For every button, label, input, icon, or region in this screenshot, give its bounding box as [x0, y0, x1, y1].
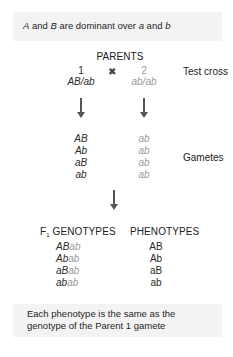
note-part: and	[144, 20, 165, 31]
note-line: genotype of the Parent 1 gamete	[27, 320, 175, 332]
arrow-down-icon	[113, 190, 115, 205]
parent2-number: 2	[133, 65, 155, 76]
f1-genotypes-list: ABab Abab aBab abab	[56, 241, 96, 289]
bottom-note-text: Each phenotype is the same as the genoty…	[27, 308, 175, 332]
phenotype: AB	[143, 241, 169, 253]
phenotypes-list: AB Ab aB ab	[143, 241, 169, 289]
gamete: aB	[68, 157, 94, 169]
parents-heading: PARENTS	[90, 51, 150, 62]
phenotypes-heading: PHENOTYPES	[130, 226, 199, 237]
parent1-number: 1	[70, 65, 92, 76]
gamete: ab	[131, 133, 157, 145]
parent2-genotype: ab/ab	[124, 76, 164, 87]
arrow-down-icon	[80, 98, 82, 113]
genotype-row: abab	[56, 277, 96, 289]
gamete: AB	[68, 133, 94, 145]
gamete: Ab	[68, 145, 94, 157]
note-line: Each phenotype is the same as the	[27, 308, 175, 320]
note-part: and	[29, 20, 50, 31]
gamete: ab	[68, 169, 94, 181]
genotype-row: ABab	[56, 241, 96, 253]
phenotype: ab	[143, 277, 169, 289]
parent1-gametes: AB Ab aB ab	[68, 133, 94, 181]
cross-icon: ✖	[105, 66, 119, 77]
test-cross-label: Test cross	[183, 66, 228, 77]
bottom-note-box: Each phenotype is the same as the genoty…	[13, 304, 222, 337]
top-note-box: A and B are dominant over a and b	[13, 12, 222, 41]
parent2-gametes: ab ab ab ab	[131, 133, 157, 181]
f1-genotypes-heading: F1 GENOTYPES	[40, 226, 116, 238]
genotype-row: aBab	[56, 265, 96, 277]
gamete: ab	[131, 157, 157, 169]
arrow-down-icon	[143, 98, 145, 113]
note-part: b	[165, 20, 170, 31]
phenotype: Ab	[143, 253, 169, 265]
phenotype: aB	[143, 265, 169, 277]
gametes-label: Gametes	[183, 152, 224, 163]
top-note-text: A and B are dominant over a and b	[23, 20, 170, 32]
note-part: are dominant over	[57, 20, 139, 31]
parent1-genotype: AB/ab	[61, 76, 101, 87]
genotype-row: Abab	[56, 253, 96, 265]
gamete: ab	[131, 145, 157, 157]
gamete: ab	[131, 169, 157, 181]
heading-suffix: GENOTYPES	[50, 226, 116, 237]
